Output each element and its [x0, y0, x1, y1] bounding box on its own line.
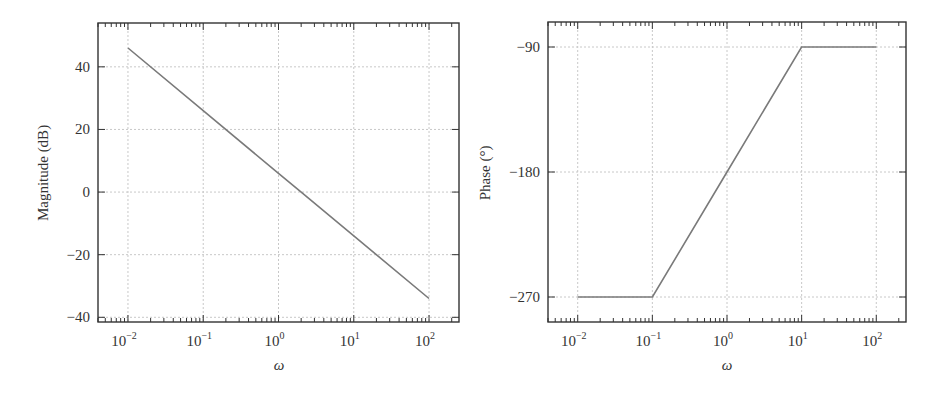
x-tick-label: 101 [340, 330, 360, 349]
magnitude-y-axis-label: Magnitude (dB) [35, 125, 52, 221]
phase-plot: 10−210−1100101102−90−180−270 [509, 22, 906, 349]
x-tick-label: 100 [713, 330, 733, 349]
x-tick-label: 10−2 [111, 330, 137, 349]
x-tick-label: 10−1 [186, 330, 212, 349]
y-tick-label: 20 [75, 121, 90, 137]
x-tick-labels: 10−210−1100101102 [111, 330, 435, 349]
bode-figure: 10−210−110010110240200−20−40 10−210−1100… [0, 0, 936, 394]
y-tick-label: −90 [517, 39, 540, 55]
y-tick-labels: 40200−20−40 [67, 59, 90, 325]
x-tick-label: 100 [265, 330, 285, 349]
y-tick-label: −40 [67, 309, 90, 325]
x-tick-label: 10−2 [561, 330, 587, 349]
x-tick-labels: 10−210−1100101102 [561, 330, 882, 349]
x-tick-label: 102 [862, 330, 882, 349]
y-tick-label: −180 [509, 164, 540, 180]
x-tick-label: 10−1 [636, 330, 662, 349]
phase-x-axis-label: ω [722, 357, 733, 373]
magnitude-plot: 10−210−110010110240200−20−40 [67, 23, 459, 349]
y-tick-label: −270 [509, 289, 540, 305]
y-tick-label: 0 [83, 184, 91, 200]
y-tick-label: −20 [67, 247, 90, 263]
bode-plot-svg: 10−210−110010110240200−20−40 10−210−1100… [0, 0, 936, 394]
x-tick-label: 101 [788, 330, 808, 349]
phase-y-axis-label: Phase (°) [477, 146, 494, 201]
y-tick-labels: −90−180−270 [509, 39, 540, 305]
x-tick-label: 102 [415, 330, 435, 349]
y-tick-label: 40 [75, 59, 90, 75]
magnitude-x-axis-label: ω [274, 357, 285, 373]
